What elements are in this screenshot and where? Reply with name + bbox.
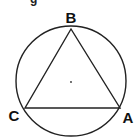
cropped-text-fragment: g [30,0,37,6]
circumscribed-triangle-diagram: g B C A [0,0,140,139]
vertex-label-a: A [123,109,134,126]
circumcircle [16,26,126,136]
vertex-label-b: B [66,9,77,26]
triangle-abc [25,29,120,108]
vertex-label-c: C [9,107,20,124]
center-point [70,81,72,83]
